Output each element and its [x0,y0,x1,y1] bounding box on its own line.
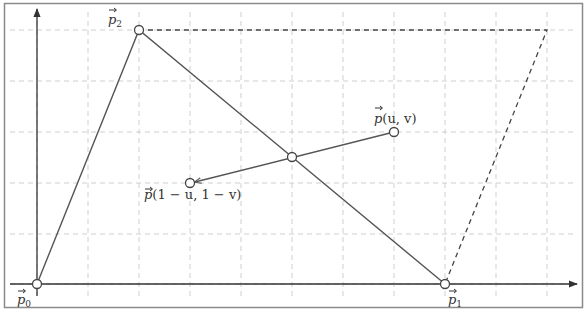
diagram-canvas: p2 p0 p1 p(u, v) p(1 − u, 1 − v) [0,0,588,312]
svg-text:p(1 − u, 1 − v): p(1 − u, 1 − v) [144,187,241,202]
svg-text:p(u, v): p(u, v) [374,111,416,126]
point-p1 [441,280,450,289]
point-center [288,153,297,162]
point-p-uv [390,128,399,137]
point-p2 [135,26,144,35]
label-p-sym: p(1 − u, 1 − v) [144,187,241,202]
point-p0 [33,280,42,289]
